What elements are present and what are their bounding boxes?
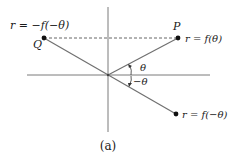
origin-point [107,74,109,76]
label-p-equation: r = f(θ) [185,33,222,44]
label-neg-theta: −θ [133,76,147,87]
point-lower [174,112,179,117]
label-theta: θ [140,62,146,73]
point-q [42,36,47,41]
theta-arrowhead-icon [128,64,132,68]
label-q-equation: r = −f(−θ) [10,19,69,32]
label-q: Q [33,38,42,51]
label-lower-equation: r = f(−θ) [182,109,228,120]
point-p [176,36,181,41]
label-p: P [172,20,181,33]
polar-symmetry-diagram: r = −f(−θ) Q P r = f(θ) θ −θ r = f(−θ) (… [0,0,242,160]
neg-theta-arc-arrow [130,76,131,84]
theta-arc-arrow [130,66,131,75]
figure-caption: (a) [100,139,117,153]
